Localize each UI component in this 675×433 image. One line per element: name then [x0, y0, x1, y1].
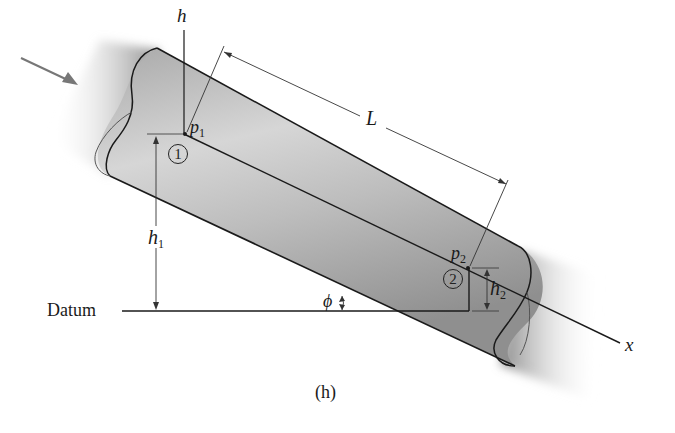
figure-caption: (h) [315, 383, 336, 401]
h1-subscript: 1 [158, 237, 164, 251]
h2-symbol: h [490, 277, 500, 299]
section2-marker: 2 [443, 269, 463, 289]
h1-symbol: h [148, 226, 158, 248]
flow-arrow-icon [21, 58, 78, 85]
p1-label: p1 [190, 118, 205, 136]
h1-label: h1 [147, 226, 165, 248]
h2-label: h2 [490, 278, 506, 298]
h2-subscript: 2 [500, 288, 506, 302]
pipe-flow-diagram: h x L p1 p2 h1 h2 ϕ Datum 1 2 (h) [0, 0, 675, 433]
p2-symbol: p [451, 243, 460, 263]
datum-label: Datum [47, 301, 96, 319]
angle-arrowhead [339, 296, 345, 302]
p1-symbol: p [190, 117, 199, 137]
h-axis-label: h [177, 6, 187, 25]
p2-subscript: 2 [460, 252, 466, 266]
angle-phi-label: ϕ [323, 292, 332, 310]
p2-label: p2 [451, 244, 466, 262]
pipe-body [95, 48, 543, 366]
section1-marker: 1 [168, 144, 188, 164]
x-axis-label: x [625, 335, 633, 354]
length-label: L [366, 108, 377, 128]
diagram-graphics [0, 0, 675, 433]
p1-subscript: 1 [199, 126, 205, 140]
